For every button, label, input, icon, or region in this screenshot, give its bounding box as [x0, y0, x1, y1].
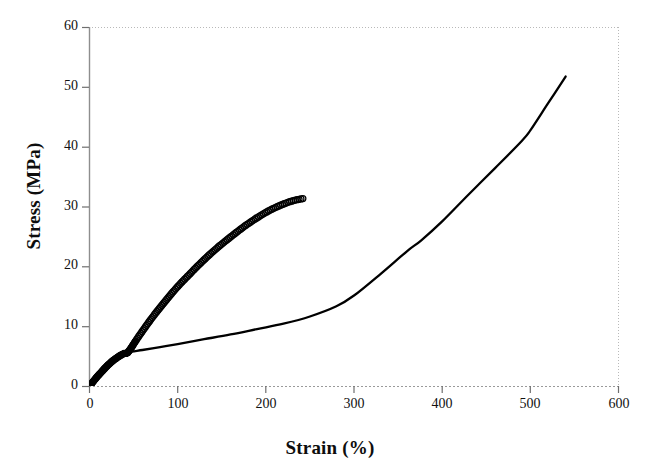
- origin-marker-cluster: [86, 338, 139, 390]
- x-tick-label-0: 0: [70, 396, 110, 412]
- x-tick-label-500: 500: [510, 396, 550, 412]
- data-series-group: [86, 77, 565, 390]
- y-axis-ticks: [82, 28, 89, 387]
- chart-figure: 60 50 40 30 20 10 0 0 100 200 300 400 50…: [0, 0, 653, 473]
- x-tick-label-400: 400: [422, 396, 462, 412]
- y-tick-label-40: 40: [44, 138, 78, 154]
- y-tick-label-10: 10: [44, 317, 78, 333]
- x-axis-ticks: [90, 386, 619, 393]
- series-solid-curve: [90, 77, 566, 387]
- series-circle-marker-curve: [87, 196, 306, 390]
- x-tick-label-200: 200: [246, 396, 286, 412]
- x-axis-title: Strain (%): [240, 437, 420, 459]
- y-tick-label-50: 50: [44, 78, 78, 94]
- x-tick-label-100: 100: [158, 396, 198, 412]
- y-tick-label-20: 20: [44, 257, 78, 273]
- y-tick-label-60: 60: [44, 18, 78, 34]
- y-tick-label-0: 0: [44, 377, 78, 393]
- y-tick-label-30: 30: [44, 198, 78, 214]
- y-axis-title: Stress (MPa): [23, 116, 45, 276]
- x-tick-label-300: 300: [334, 396, 374, 412]
- x-tick-label-600: 600: [599, 396, 639, 412]
